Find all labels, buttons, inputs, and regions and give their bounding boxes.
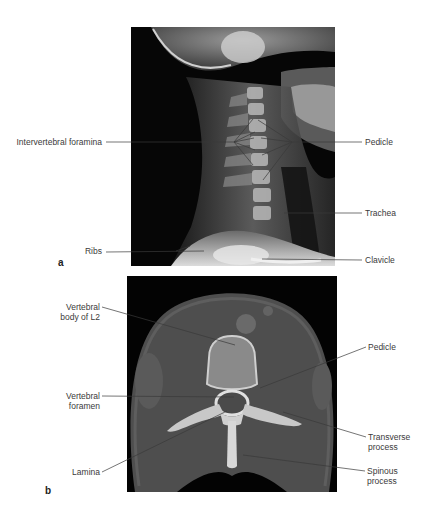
- ct-axial-lumbar-image: [127, 276, 337, 492]
- label-pedicle-a: Pedicle: [365, 137, 393, 147]
- xray-lateral-cervical-image: [131, 27, 335, 266]
- ct-illustration: [127, 276, 337, 492]
- label-spinous-process-line1: Spinous: [367, 466, 398, 476]
- label-intervertebral-foramina: Intervertebral foramina: [10, 137, 102, 147]
- label-transverse-process-line2: process: [368, 442, 398, 452]
- label-trachea: Trachea: [365, 208, 396, 218]
- label-vertebral-body-line1: Vertebral: [40, 302, 100, 312]
- label-vertebral-foramen-line1: Vertebral: [40, 391, 100, 401]
- label-ribs: Ribs: [60, 246, 102, 256]
- label-clavicle: Clavicle: [365, 255, 395, 265]
- label-vertebral-body-line2: body of L2: [40, 312, 100, 322]
- label-spinous-process-line2: process: [367, 476, 397, 486]
- panel-letter-b: b: [45, 485, 51, 496]
- label-pedicle-b: Pedicle: [368, 342, 396, 352]
- label-transverse-process-line1: Transverse: [368, 432, 410, 442]
- xray-illustration: [131, 27, 335, 266]
- panel-letter-a: a: [58, 257, 64, 268]
- label-lamina: Lamina: [40, 467, 100, 477]
- label-vertebral-foramen-line2: foramen: [40, 401, 100, 411]
